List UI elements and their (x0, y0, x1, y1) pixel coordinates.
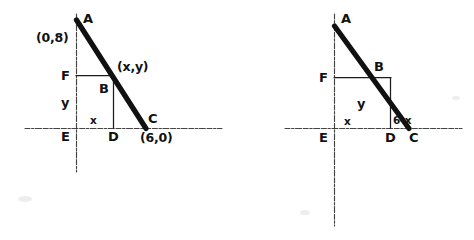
right-label-vertex-d: D (385, 130, 396, 145)
left-label-point-b-coordinate: (x,y) (117, 59, 148, 74)
left-label-point-c-coordinate: (6,0) (140, 130, 173, 145)
left-label-vertex-f: F (61, 68, 70, 83)
left-hypotenuse-ac (77, 20, 147, 129)
right-label-vertex-f: F (319, 70, 328, 85)
left-label-segment-vertical: y (61, 95, 70, 110)
right-label-segment-vertical: y (357, 96, 366, 111)
diagram-canvas: (0,8) A (x,y) B F y x E D C (6,0) A (0, 0, 474, 240)
left-label-vertex-a: A (83, 11, 93, 26)
right-label-vertex-c: C (409, 130, 419, 145)
left-label-segment-horizontal: x (90, 114, 97, 126)
geometry-figure: (0,8) A (x,y) B F y x E D C (6,0) A (0, 0, 474, 240)
right-label-vertex-a: A (341, 11, 351, 26)
left-label-point-a-coordinate: (0,8) (36, 30, 69, 45)
left-label-vertex-d: D (108, 129, 119, 144)
right-label-segment-horizontal: x (344, 115, 351, 127)
left-label-vertex-c: C (148, 111, 158, 126)
right-panel: A B F y x 6-x E D C (285, 11, 462, 226)
left-panel: (0,8) A (x,y) B F y x E D C (6,0) (25, 11, 222, 172)
right-label-segment-remainder: 6-x (393, 114, 412, 126)
left-label-vertex-b: B (99, 81, 109, 96)
right-label-vertex-e: E (319, 130, 328, 145)
right-label-vertex-b: B (374, 59, 384, 74)
left-label-vertex-e: E (61, 129, 70, 144)
